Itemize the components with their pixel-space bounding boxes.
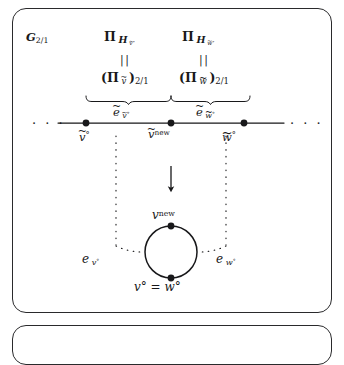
parallel-equals-right: || xyxy=(199,54,209,65)
pi-v-tilde-2-1: (Π ~v )2/1 xyxy=(101,72,149,86)
brace-label-e-tilde-w: ~e ~w° xyxy=(196,107,215,120)
pi-w-tilde-2-1: (Π ~w )2/1 xyxy=(179,72,229,86)
e-tilde-right: ~e xyxy=(196,107,203,119)
tilde-accent: ~ xyxy=(205,108,212,117)
frame-label-subscript: 2/1 xyxy=(36,36,49,45)
new-superscript: new xyxy=(159,209,175,218)
pi-glyph: Π xyxy=(107,70,119,85)
tilde-accent: ~ xyxy=(78,127,87,138)
w-letter: w xyxy=(226,257,233,267)
v-letter: v xyxy=(152,208,159,222)
pi-H-w-tilde: Π H ~w° xyxy=(182,31,214,47)
new-superscript: new xyxy=(155,128,170,137)
pi-glyph-right: Π xyxy=(182,29,194,44)
vertex-label-v-tilde-circ: ~v° xyxy=(79,131,90,143)
w-tilde-sub-right: ~w xyxy=(205,112,212,120)
v-tilde: ~v xyxy=(79,132,86,144)
w-tilde: ~w xyxy=(199,77,206,86)
tilde-accent: ~ xyxy=(129,39,134,44)
v-tilde-left: ~v xyxy=(129,41,132,47)
figure-frame-main xyxy=(12,8,332,313)
loop-label-v-new: vnew xyxy=(152,209,175,221)
outer-subscript-right: 2/1 xyxy=(215,76,229,86)
degree: ° xyxy=(233,258,236,264)
script-H-left: H xyxy=(119,34,128,45)
pi-glyph-left: Π xyxy=(104,29,116,44)
tilde-accent: ~ xyxy=(147,125,156,136)
loop-label-v-circ-equals-w-circ: v° = w° xyxy=(134,281,181,293)
vertex-label-w-tilde-circ: ~w° xyxy=(222,131,236,143)
v-tilde-sub-left: ~v xyxy=(122,112,126,120)
brace-label-e-tilde-v: ~e ~v° xyxy=(113,107,130,120)
parallel-equals-left: || xyxy=(120,54,130,65)
e-tilde-left: ~e xyxy=(113,107,120,119)
v-tilde: ~v xyxy=(148,129,155,141)
pi-H-v-tilde: Π H ~v° xyxy=(104,31,135,47)
frame-label-base: G xyxy=(26,30,36,44)
tilde-accent: ~ xyxy=(112,102,121,113)
loop-edge-label-e-w: e w° xyxy=(216,253,236,266)
degree: ° xyxy=(96,258,99,264)
pi-glyph: Π xyxy=(185,70,197,85)
tilde-accent: ~ xyxy=(199,73,207,83)
tilde-accent: ~ xyxy=(207,38,212,45)
degree-right: ° xyxy=(212,40,214,45)
ellipsis-left: · · · xyxy=(32,117,65,130)
loop-edge-label-e-v: e v° xyxy=(82,253,99,266)
w-tilde-right: ~w xyxy=(207,41,212,47)
figure-frame-next xyxy=(12,325,332,365)
vertex-label-v-tilde-new: ~vnew xyxy=(148,129,170,141)
v-tilde: ~v xyxy=(121,77,126,86)
tilde-accent: ~ xyxy=(222,126,233,139)
outer-subscript-left: 2/1 xyxy=(135,76,149,86)
w-tilde: ~w xyxy=(222,132,232,144)
tilde-accent: ~ xyxy=(121,74,128,82)
script-H-right: H xyxy=(197,34,206,45)
tilde-accent: ~ xyxy=(195,102,204,113)
figure-frame-label: G2/1 xyxy=(26,32,48,45)
ellipsis-right: · · · xyxy=(290,117,323,130)
tilde-accent: ~ xyxy=(121,109,127,116)
degree: ° xyxy=(212,111,215,117)
degree: ° xyxy=(232,130,236,140)
